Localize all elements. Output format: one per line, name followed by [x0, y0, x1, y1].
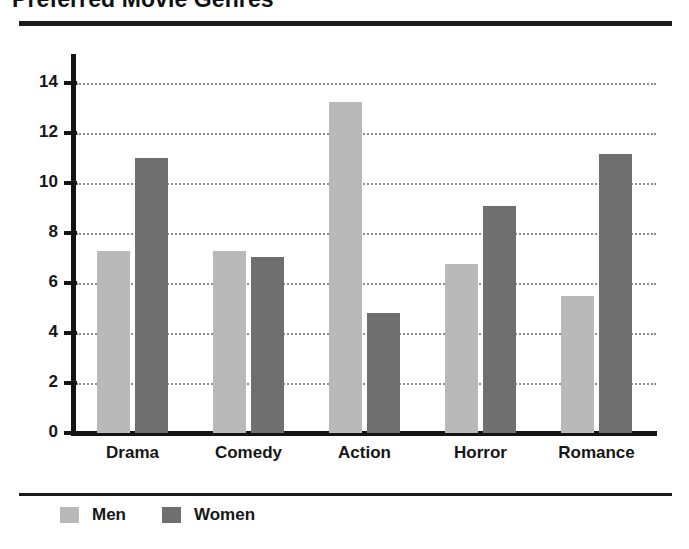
bar-drama-men: [97, 251, 130, 434]
bar-horror-women: [483, 206, 516, 434]
legend-swatch-women: [162, 507, 181, 523]
legend-label-women: Women: [194, 505, 255, 525]
bar-romance-men: [561, 296, 594, 434]
legend-swatch-men: [60, 507, 79, 523]
bar-romance-women: [599, 154, 632, 433]
bar-comedy-men: [213, 251, 246, 434]
x-axis-label-horror: Horror: [421, 443, 541, 463]
x-axis-label-drama: Drama: [73, 443, 193, 463]
bars-layer: [0, 0, 689, 433]
legend-label-men: Men: [92, 505, 126, 525]
chart-page: Preferred Movie Genres 02468101214 Drama…: [0, 0, 689, 549]
x-axis-label-action: Action: [305, 443, 425, 463]
x-axis-label-comedy: Comedy: [189, 443, 309, 463]
bar-comedy-women: [251, 257, 284, 433]
bar-action-women: [367, 313, 400, 433]
bar-action-men: [329, 102, 362, 433]
legend-divider: [19, 493, 672, 496]
bar-drama-women: [135, 158, 168, 433]
legend-item-women[interactable]: Women: [162, 505, 255, 525]
x-axis-label-romance: Romance: [537, 443, 657, 463]
plot-area: 02468101214 DramaComedyActionHorrorRoman…: [0, 0, 689, 549]
bar-horror-men: [445, 264, 478, 433]
legend-item-men[interactable]: Men: [60, 505, 126, 525]
legend: Men Women: [60, 505, 255, 525]
